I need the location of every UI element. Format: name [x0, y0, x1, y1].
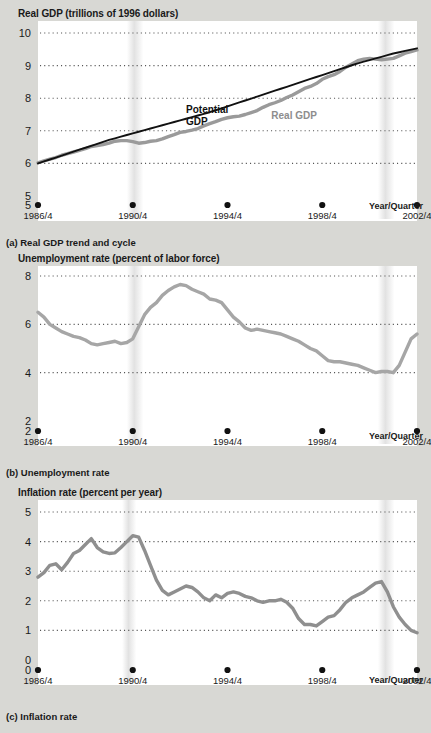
- svg-text:10: 10: [19, 27, 31, 39]
- svg-text:9: 9: [25, 60, 31, 72]
- panel-unemployment: Unemployment rate (percent of labor forc…: [0, 253, 431, 478]
- xaxis-note-inflation: Year/Quarter: [369, 675, 423, 685]
- svg-text:4: 4: [25, 536, 31, 548]
- svg-text:5: 5: [25, 199, 31, 211]
- chart-inflation: 0123451986/41990/41994/41998/42002/40: [0, 500, 431, 695]
- panel-caption-inflation: (c) Inflation rate: [6, 711, 431, 722]
- plot-area-unemployment: 24681986/41990/41994/41998/42002/42 Year…: [0, 266, 431, 451]
- svg-text:1998/4: 1998/4: [308, 210, 337, 221]
- svg-text:1994/4: 1994/4: [213, 675, 242, 686]
- svg-text:2: 2: [25, 595, 31, 607]
- xaxis-note-real-gdp: Year/Quarter: [369, 201, 423, 211]
- chart-real-gdp: 56789101986/41990/41994/41998/42002/45Po…: [0, 21, 431, 221]
- economics-figure: Real GDP (trillions of 1996 dollars) 567…: [0, 0, 431, 733]
- svg-text:1990/4: 1990/4: [118, 436, 147, 447]
- panel-title-unemployment: Unemployment rate (percent of labor forc…: [18, 253, 431, 264]
- svg-text:1990/4: 1990/4: [118, 210, 147, 221]
- svg-text:1994/4: 1994/4: [213, 210, 242, 221]
- svg-text:1998/4: 1998/4: [308, 675, 337, 686]
- panel-inflation: Inflation rate (percent per year) 012345…: [0, 487, 431, 722]
- svg-text:3: 3: [25, 565, 31, 577]
- svg-text:1: 1: [25, 624, 31, 636]
- panel-title-real-gdp: Real GDP (trillions of 1996 dollars): [18, 8, 431, 19]
- svg-text:2: 2: [25, 425, 31, 437]
- svg-text:6: 6: [25, 318, 31, 330]
- svg-text:1986/4: 1986/4: [23, 210, 52, 221]
- panel-title-inflation: Inflation rate (percent per year): [18, 487, 431, 498]
- panel-caption-real-gdp: (a) Real GDP trend and cycle: [6, 237, 431, 248]
- svg-text:Potential: Potential: [186, 104, 228, 115]
- plot-area-inflation: 0123451986/41990/41994/41998/42002/40 Ye…: [0, 500, 431, 695]
- panel-caption-unemployment: (b) Unemployment rate: [6, 467, 431, 478]
- svg-text:GDP: GDP: [186, 116, 208, 127]
- svg-text:7: 7: [25, 125, 31, 137]
- svg-text:6: 6: [25, 157, 31, 169]
- svg-text:8: 8: [25, 270, 31, 282]
- panel-real-gdp: Real GDP (trillions of 1996 dollars) 567…: [0, 8, 431, 248]
- svg-text:4: 4: [25, 367, 31, 379]
- svg-text:2002/4: 2002/4: [402, 210, 431, 221]
- svg-text:1990/4: 1990/4: [118, 675, 147, 686]
- svg-text:5: 5: [25, 506, 31, 518]
- svg-text:8: 8: [25, 92, 31, 104]
- chart-unemployment: 24681986/41990/41994/41998/42002/42: [0, 266, 431, 451]
- svg-text:1998/4: 1998/4: [308, 436, 337, 447]
- svg-text:Real GDP: Real GDP: [271, 110, 317, 121]
- svg-text:1986/4: 1986/4: [23, 675, 52, 686]
- svg-text:0: 0: [25, 664, 31, 676]
- xaxis-note-unemployment: Year/Quarter: [369, 431, 423, 441]
- svg-text:1986/4: 1986/4: [23, 436, 52, 447]
- plot-area-real-gdp: 56789101986/41990/41994/41998/42002/45Po…: [0, 21, 431, 221]
- svg-text:1994/4: 1994/4: [213, 436, 242, 447]
